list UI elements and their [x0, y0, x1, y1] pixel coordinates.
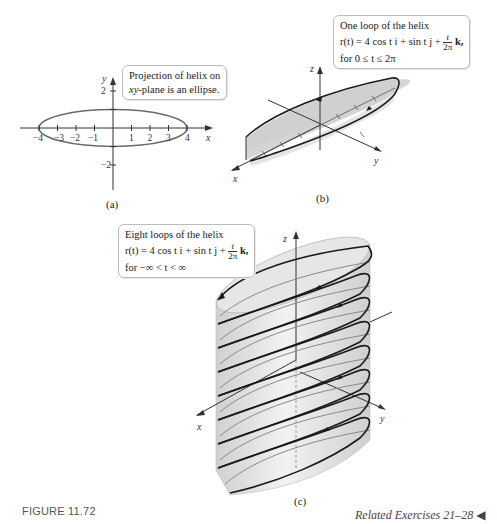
- x-tick-label: 1: [129, 133, 134, 143]
- x-axis-label: x: [196, 421, 202, 432]
- x-axis-label: x: [205, 132, 211, 143]
- callout-eight-loops: Eight loops of the helix r(t) = 4 cos t …: [118, 224, 255, 278]
- helix-equation: r(t) = 4 cos t i + sin t j + t2π k,: [340, 33, 463, 52]
- y-axis-label: y: [379, 413, 385, 424]
- callout-line: xy-plane is an ellipse.: [129, 83, 220, 97]
- y-tick-label: −2: [101, 160, 111, 170]
- panel-b-graph: x y z: [231, 63, 410, 184]
- x-axis-label: x: [232, 173, 238, 184]
- callout-line: for 0 ≤ t ≤ 2π: [340, 52, 463, 66]
- panel-c-label: (c): [294, 495, 306, 507]
- panel-a-label: (a): [106, 198, 118, 210]
- callout-line: for −∞ < t < ∞: [125, 261, 248, 275]
- callout-line: Projection of helix on: [129, 69, 220, 83]
- callout-one-loop: One loop of the helix r(t) = 4 cos t i +…: [333, 15, 470, 69]
- x-tick-label: −1: [88, 133, 98, 143]
- helix-equation: r(t) = 4 cos t i + sin t j + t2π k,: [125, 242, 248, 261]
- x-tick-label: −2: [70, 133, 80, 143]
- x-tick-label: 4: [185, 133, 190, 143]
- y-tick-label: 2: [101, 86, 106, 96]
- figure-caption: FIGURE 11.72: [22, 505, 96, 517]
- callout-projection: Projection of helix on xy-plane is an el…: [122, 65, 227, 100]
- related-exercises: Related Exercises 21–28 ◀: [355, 508, 485, 523]
- x-tick-label: 3: [166, 133, 171, 143]
- y-axis-arrow-icon: [110, 77, 116, 85]
- y-axis-label: y: [101, 73, 107, 84]
- y-axis-label: y: [373, 155, 379, 166]
- x-tick-label: −4: [33, 133, 43, 143]
- callout-line: Eight loops of the helix: [125, 228, 248, 242]
- z-axis-label: z: [282, 233, 287, 244]
- panel-b-label: (b): [316, 192, 329, 204]
- x-tick-label: 2: [148, 133, 153, 143]
- x-axis-arrow-icon: [205, 125, 213, 131]
- z-axis-label: z: [309, 63, 314, 74]
- x-tick-label: −3: [54, 133, 64, 143]
- callout-line: One loop of the helix: [340, 19, 463, 33]
- triangle-marker-icon: ◀: [476, 508, 485, 522]
